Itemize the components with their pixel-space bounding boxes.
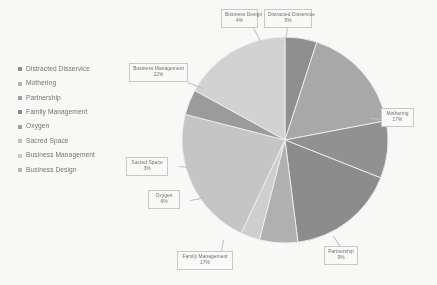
legend-swatch-icon bbox=[18, 82, 22, 86]
legend-item-partnership[interactable]: Partnership bbox=[18, 91, 138, 105]
legend-item-label: Mothering bbox=[26, 80, 56, 87]
chart-page: Distracted Disservice Mothering Partners… bbox=[0, 0, 437, 285]
legend-item-label: Business Design bbox=[26, 167, 77, 174]
legend-item-family-management[interactable]: Family Management bbox=[18, 105, 138, 119]
legend-item-sacred-space[interactable]: Sacred Space bbox=[18, 134, 138, 148]
legend-item-distracted-disservice[interactable]: Distracted Disservice bbox=[18, 62, 138, 76]
legend-swatch-icon bbox=[18, 67, 22, 71]
legend-swatch-icon bbox=[18, 154, 22, 158]
legend-swatch-icon bbox=[18, 139, 22, 143]
legend-item-mothering[interactable]: Mothering bbox=[18, 76, 138, 90]
legend-item-label: Business Management bbox=[26, 152, 95, 159]
callout-value: 5% bbox=[268, 18, 308, 24]
legend-swatch-icon bbox=[18, 168, 22, 172]
chart-legend: Distracted Disservice Mothering Partners… bbox=[18, 62, 138, 177]
legend-item-label: Oxygen bbox=[26, 123, 49, 130]
callout-mothering[interactable]: Mothering 17% bbox=[381, 108, 414, 127]
pie-svg bbox=[181, 36, 389, 244]
callout-partnership[interactable]: Partnership 9% bbox=[324, 246, 358, 265]
pie-chart bbox=[181, 36, 389, 244]
callout-value: 22% bbox=[133, 72, 184, 78]
legend-item-label: Family Management bbox=[26, 109, 87, 116]
callout-value: 17% bbox=[385, 117, 410, 123]
callout-family-management[interactable]: Family Management 17% bbox=[177, 251, 233, 270]
legend-item-label: Partnership bbox=[26, 95, 61, 102]
callout-oxygen[interactable]: Oxygen 6% bbox=[148, 190, 180, 209]
legend-item-label: Distracted Disservice bbox=[26, 66, 90, 73]
callout-value: 9% bbox=[328, 255, 354, 261]
callout-value: 3% bbox=[130, 166, 164, 172]
legend-item-label: Sacred Space bbox=[26, 138, 69, 145]
callout-value: 17% bbox=[181, 260, 229, 266]
pie-slices bbox=[181, 36, 389, 244]
legend-swatch-icon bbox=[18, 125, 22, 129]
legend-item-business-management[interactable]: Business Management bbox=[18, 148, 138, 162]
legend-item-business-design[interactable]: Business Design bbox=[18, 163, 138, 177]
legend-swatch-icon bbox=[18, 96, 22, 100]
callout-distracted-disservice[interactable]: Distracted Disservice 5% bbox=[264, 9, 312, 28]
callout-sacred-space[interactable]: Sacred Space 3% bbox=[126, 157, 168, 176]
callout-business-management[interactable]: Business Management 22% bbox=[129, 63, 188, 82]
callout-business-design[interactable]: Business Design 4% bbox=[221, 9, 258, 28]
legend-swatch-icon bbox=[18, 110, 22, 114]
legend-item-oxygen[interactable]: Oxygen bbox=[18, 120, 138, 134]
callout-value: 4% bbox=[225, 18, 254, 24]
callout-value: 6% bbox=[152, 199, 176, 205]
